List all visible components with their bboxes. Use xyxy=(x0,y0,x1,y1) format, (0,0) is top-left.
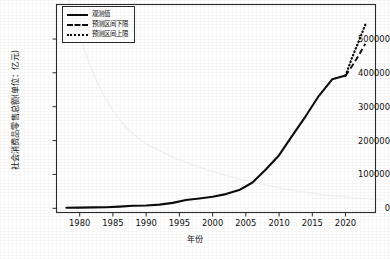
legend-label: 预测区间下限 xyxy=(92,20,129,29)
x-axis-title: 年份 xyxy=(0,232,390,244)
legend-item-forecast-lower: 预测区间下限 xyxy=(67,20,129,29)
y-tick-label: 400000 xyxy=(336,68,390,78)
legend-solid-line-icon xyxy=(67,10,88,19)
y-tick-label: 100000 xyxy=(336,169,390,179)
legend-label: 预测区间上限 xyxy=(92,30,129,39)
chart-figure: 0 100000 200000 300000 400000 500000 198… xyxy=(0,0,390,259)
chart-legend: 观测值 预测区间下限 预测区间上限 xyxy=(62,6,135,43)
legend-label: 观测值 xyxy=(92,10,110,19)
legend-item-observed: 观测值 xyxy=(67,10,129,19)
x-tick-label: 2020 xyxy=(326,218,366,228)
x-tick-marks xyxy=(80,213,346,217)
y-tick-label: 200000 xyxy=(336,136,390,146)
legend-item-forecast-upper: 预测区间上限 xyxy=(67,30,129,39)
y-tick-marks xyxy=(53,39,57,208)
y-tick-label: 300000 xyxy=(336,102,390,112)
legend-dashed-line-icon xyxy=(67,20,88,29)
y-tick-label: 500000 xyxy=(336,34,390,44)
y-axis-title: 社会消费品零售总额(单位：亿元) xyxy=(8,10,20,210)
y-tick-label: 0 xyxy=(336,203,390,213)
legend-dotted-line-icon xyxy=(67,30,88,39)
